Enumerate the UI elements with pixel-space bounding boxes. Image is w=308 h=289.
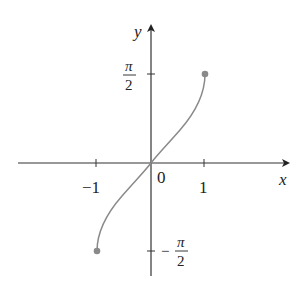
svg-text:2: 2 xyxy=(125,77,133,93)
y-tick-label-neg-pi-over-2: − π 2 xyxy=(161,234,188,269)
arcsin-chart: y x −1 0 1 π 2 − π 2 xyxy=(0,0,308,289)
svg-text:−: − xyxy=(161,243,169,259)
endpoint-upper xyxy=(202,71,209,78)
svg-text:π: π xyxy=(125,58,133,74)
svg-text:π: π xyxy=(177,234,185,250)
origin-label: 0 xyxy=(157,168,166,187)
x-tick-label-pos1: 1 xyxy=(199,178,208,197)
y-axis-label: y xyxy=(132,22,142,41)
svg-text:2: 2 xyxy=(177,253,185,269)
x-tick-label-neg1: −1 xyxy=(82,178,100,197)
y-tick-label-pi-over-2: π 2 xyxy=(123,58,136,93)
x-axis-label: x xyxy=(278,170,287,189)
endpoint-lower xyxy=(94,248,101,255)
